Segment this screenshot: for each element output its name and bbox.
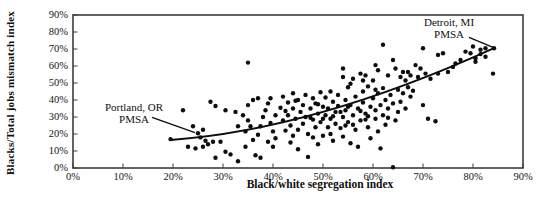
data-point bbox=[246, 60, 250, 64]
data-point bbox=[383, 123, 387, 127]
data-point bbox=[381, 86, 385, 90]
x-tick-label: 40% bbox=[263, 171, 282, 182]
data-point bbox=[361, 78, 365, 82]
detroit-annotation-label: Detroit, MIPMSA bbox=[424, 16, 474, 40]
data-point bbox=[483, 55, 487, 59]
y-tick-label: 40% bbox=[36, 94, 68, 105]
data-point bbox=[356, 145, 360, 149]
data-point bbox=[316, 102, 320, 106]
data-point bbox=[346, 120, 350, 124]
data-point bbox=[246, 103, 250, 107]
data-point bbox=[248, 124, 252, 128]
data-point bbox=[336, 93, 340, 97]
data-point bbox=[358, 71, 362, 75]
data-point bbox=[363, 73, 367, 77]
y-tick-label: 20% bbox=[36, 128, 68, 139]
data-point bbox=[386, 106, 390, 110]
data-point bbox=[368, 136, 372, 140]
data-point bbox=[311, 117, 315, 121]
data-point bbox=[266, 140, 270, 144]
data-point bbox=[308, 106, 312, 110]
data-point bbox=[266, 101, 270, 105]
data-point bbox=[341, 75, 345, 79]
data-point bbox=[341, 134, 345, 138]
data-point bbox=[411, 89, 415, 93]
data-point bbox=[273, 136, 277, 140]
data-point bbox=[338, 110, 342, 114]
data-point bbox=[311, 96, 315, 100]
data-point bbox=[391, 58, 395, 62]
data-point bbox=[341, 115, 345, 119]
data-point bbox=[321, 134, 325, 138]
data-point bbox=[373, 63, 377, 67]
x-tick-label: 0% bbox=[66, 171, 80, 182]
data-point bbox=[258, 156, 262, 160]
data-point bbox=[428, 77, 432, 81]
data-point bbox=[376, 68, 380, 72]
data-point bbox=[291, 91, 295, 95]
data-point bbox=[348, 141, 352, 145]
portland-annotation-label: Portland, ORPMSA bbox=[105, 101, 163, 125]
data-point bbox=[316, 142, 320, 146]
data-point bbox=[418, 66, 422, 70]
data-point bbox=[323, 95, 327, 99]
data-point bbox=[386, 73, 390, 77]
y-tick-label: 80% bbox=[36, 26, 68, 37]
data-point bbox=[333, 122, 337, 126]
data-point bbox=[318, 90, 322, 94]
data-point bbox=[213, 104, 217, 108]
data-point bbox=[396, 110, 400, 114]
data-point bbox=[328, 132, 332, 136]
portland-annotation-line: Portland, OR bbox=[105, 101, 163, 113]
data-point bbox=[296, 98, 300, 102]
data-point bbox=[338, 126, 342, 130]
data-point bbox=[351, 123, 355, 127]
data-point bbox=[446, 70, 450, 74]
x-tick-label: 90% bbox=[513, 171, 532, 182]
data-point bbox=[328, 89, 332, 93]
data-point bbox=[371, 78, 375, 82]
data-point bbox=[301, 122, 305, 126]
data-point bbox=[256, 133, 260, 137]
data-point bbox=[268, 96, 272, 100]
data-point bbox=[181, 108, 185, 112]
x-tick-label: 50% bbox=[313, 171, 332, 182]
data-point bbox=[353, 128, 357, 132]
data-point bbox=[331, 139, 335, 143]
data-point bbox=[201, 145, 205, 149]
data-point bbox=[196, 131, 200, 135]
data-point bbox=[398, 75, 402, 79]
detroit-annotation-line: PMSA bbox=[424, 28, 474, 40]
data-point bbox=[441, 51, 445, 55]
data-point bbox=[421, 103, 425, 107]
data-point bbox=[393, 118, 397, 122]
data-point bbox=[301, 103, 305, 107]
x-tick-label: 30% bbox=[213, 171, 232, 182]
data-point bbox=[391, 165, 395, 169]
data-point bbox=[351, 113, 355, 117]
data-point bbox=[423, 71, 427, 75]
data-point bbox=[278, 106, 282, 110]
data-point bbox=[351, 77, 355, 81]
data-point bbox=[361, 89, 365, 93]
data-point bbox=[331, 114, 335, 118]
data-point bbox=[306, 132, 310, 136]
data-point bbox=[343, 98, 347, 102]
data-point bbox=[353, 94, 357, 98]
data-point bbox=[288, 123, 292, 127]
data-point bbox=[323, 113, 327, 117]
x-tick-label: 80% bbox=[463, 171, 482, 182]
data-point bbox=[298, 110, 302, 114]
data-point bbox=[218, 140, 222, 144]
data-point bbox=[378, 146, 382, 150]
data-point bbox=[291, 106, 295, 110]
data-point bbox=[401, 70, 405, 74]
data-point bbox=[381, 43, 385, 47]
data-point bbox=[468, 51, 472, 55]
data-point bbox=[398, 100, 402, 104]
data-point bbox=[401, 91, 405, 95]
data-point bbox=[256, 96, 260, 100]
data-point bbox=[186, 145, 190, 149]
portland-annotation-line: PMSA bbox=[105, 113, 163, 125]
data-point bbox=[413, 63, 417, 67]
